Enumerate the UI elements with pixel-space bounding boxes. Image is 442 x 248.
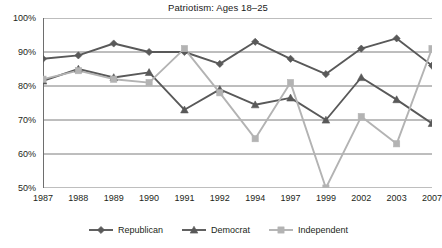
data-point-republican-1989 <box>110 40 117 47</box>
plot-area <box>43 18 432 188</box>
x-axis-tick-label: 1997 <box>281 193 301 203</box>
x-axis-tick-label: 2003 <box>387 193 407 203</box>
y-axis-tick-label: 90% <box>18 47 36 57</box>
y-axis-tick-label: 100% <box>13 13 36 23</box>
x-axis-tick-label: 2002 <box>351 193 371 203</box>
y-axis-tick-label: 80% <box>18 81 36 91</box>
square-marker-icon <box>268 224 294 236</box>
data-point-independent-1988 <box>75 68 81 74</box>
y-axis-tick-label: 60% <box>18 149 36 159</box>
legend-item-democrat[interactable]: Democrat <box>181 224 250 236</box>
series-line-independent <box>43 49 432 188</box>
x-axis-tick-label: 1992 <box>210 193 230 203</box>
chart-legend: RepublicanDemocratIndependent <box>0 224 436 236</box>
data-point-democrat-2002 <box>357 74 365 81</box>
plot-svg <box>43 18 432 188</box>
x-axis-tick-label: 1990 <box>139 193 159 203</box>
chart-title: Patriotism: Ages 18–25 <box>0 2 436 13</box>
x-axis-tick-label: 1989 <box>104 193 124 203</box>
data-point-independent-1992 <box>217 90 223 96</box>
x-axis-tick-label: 1987 <box>33 193 53 203</box>
data-point-republican-1987 <box>43 55 47 62</box>
series-line-republican <box>43 38 432 74</box>
x-axis-tick-label: 1991 <box>174 193 194 203</box>
legend-item-independent[interactable]: Independent <box>268 224 348 236</box>
legend-item-republican[interactable]: Republican <box>88 224 163 236</box>
data-point-republican-1988 <box>75 52 82 59</box>
data-point-republican-1997 <box>287 55 294 62</box>
data-point-independent-1991 <box>181 46 187 52</box>
x-axis-tick-label: 2007 <box>422 193 442 203</box>
data-point-independent-1989 <box>111 76 117 82</box>
data-point-independent-1994 <box>252 136 258 142</box>
legend-label: Democrat <box>211 225 250 235</box>
data-point-independent-1997 <box>287 80 293 86</box>
x-axis-tick-label: 1988 <box>68 193 88 203</box>
data-point-independent-1999 <box>323 185 329 188</box>
y-axis-tick-label: 50% <box>18 183 36 193</box>
data-point-independent-2003 <box>394 141 400 147</box>
data-point-independent-2007 <box>429 46 432 52</box>
data-point-independent-1990 <box>146 80 152 86</box>
triangle-marker-icon <box>181 224 207 236</box>
x-axis-tick-label: 1994 <box>245 193 265 203</box>
square-marker-icon <box>278 227 284 233</box>
y-axis: 50%60%70%80%90%100% <box>0 0 36 248</box>
diamond-marker-icon <box>97 226 104 233</box>
x-axis-tick-label: 1999 <box>316 193 336 203</box>
diamond-marker-icon <box>88 224 114 236</box>
data-point-independent-2002 <box>358 114 364 120</box>
data-point-independent-1987 <box>43 76 46 82</box>
data-point-republican-1990 <box>145 48 152 55</box>
legend-label: Republican <box>118 225 163 235</box>
legend-label: Independent <box>298 225 348 235</box>
y-axis-tick-label: 70% <box>18 115 36 125</box>
x-axis: 1987198819891990199119921994199719992002… <box>43 193 432 209</box>
